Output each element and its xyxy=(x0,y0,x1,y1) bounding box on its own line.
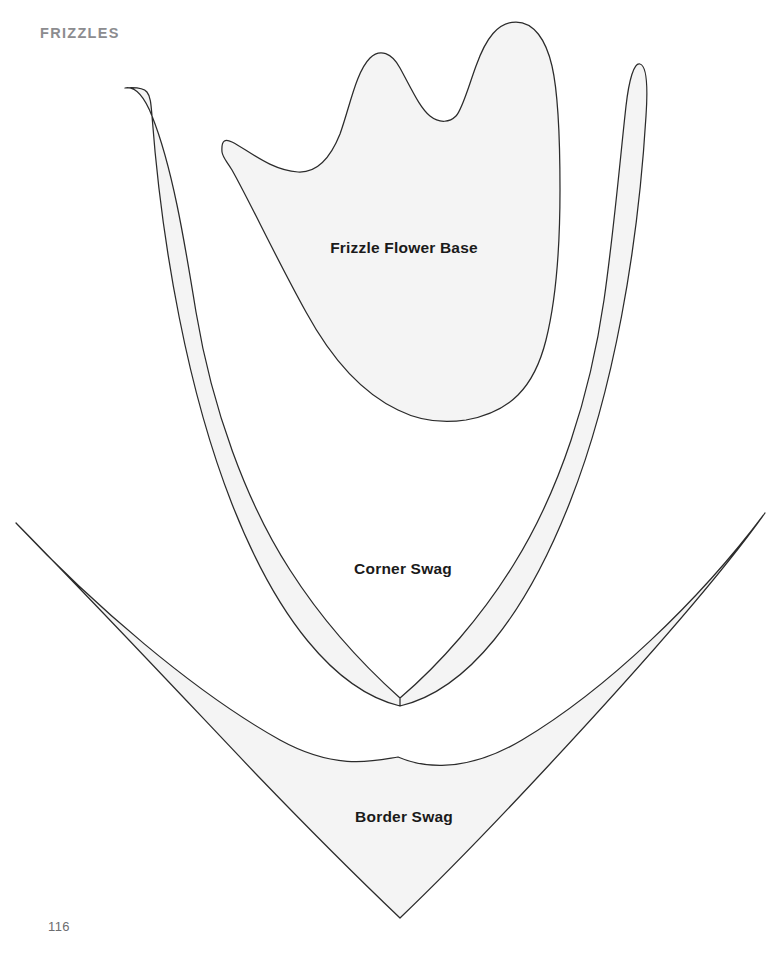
pattern-piece-frizzle-flower-base: Frizzle Flower Base xyxy=(222,22,560,422)
page-number: 116 xyxy=(48,919,70,934)
border-swag-label: Border Swag xyxy=(355,808,453,825)
corner-swag-label: Corner Swag xyxy=(354,560,452,577)
frizzle-flower-base-label: Frizzle Flower Base xyxy=(330,239,478,256)
pattern-canvas: Frizzle Flower Base Corner Swag Border S… xyxy=(0,0,770,958)
frizzle-flower-base-outline xyxy=(222,22,560,422)
pattern-page: FRIZZLES Frizzle Flower Base Corner Swag… xyxy=(0,0,770,958)
